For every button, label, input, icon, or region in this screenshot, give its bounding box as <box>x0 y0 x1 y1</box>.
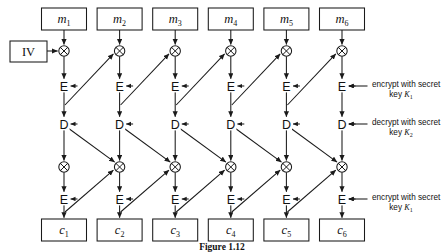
encrypt-node-upper-label: E <box>60 80 68 94</box>
wire-decrypt-diagonal <box>177 127 226 163</box>
encrypt-node-upper: E <box>281 80 300 94</box>
wire-feedback-upper-diagonal <box>121 54 169 105</box>
encrypt-node-upper: E <box>58 80 77 94</box>
annotation-line-2: key K2 <box>389 128 413 138</box>
decrypt-node: D <box>225 118 244 132</box>
encrypt-node-upper: E <box>114 80 133 94</box>
wire-decrypt-diagonal <box>233 127 282 163</box>
wire-feedback-lower-diagonal <box>176 170 224 212</box>
encrypt-node-upper-label: E <box>338 80 346 94</box>
encrypt-node-lower-label: E <box>338 193 346 207</box>
encrypt-node-lower-label: E <box>60 193 68 207</box>
decrypt-node: D <box>170 118 189 132</box>
wire-feedback-upper-diagonal <box>287 54 335 105</box>
xor-node-upper <box>170 46 180 56</box>
annotation-line-1: encrypt with secret <box>372 80 441 89</box>
wire-feedback-upper-diagonal <box>176 54 224 105</box>
encrypt-node-lower: E <box>225 193 244 207</box>
figure-caption: Figure 1.12 <box>199 242 245 252</box>
encrypt-node-upper-label: E <box>115 80 123 94</box>
wire-feedback-upper-diagonal <box>65 54 113 105</box>
decrypt-node: D <box>336 118 355 132</box>
encrypt-node-lower-label: E <box>115 193 123 207</box>
decrypt-node-label: D <box>171 118 180 132</box>
annotation-encrypt-k1-upper: encrypt with secretkey K1 <box>349 80 441 100</box>
decrypt-node-label: D <box>337 118 346 132</box>
decrypt-node: D <box>114 118 133 132</box>
encrypt-node-lower: E <box>114 193 133 207</box>
wire-decrypt-diagonal <box>288 127 337 163</box>
encrypt-node-lower-label: E <box>227 193 235 207</box>
annotation-decrypt-k2: decrypt with secretkey K2 <box>349 118 441 138</box>
annotation-encrypt-k1-lower: encrypt with secretkey K1 <box>349 193 441 213</box>
wire-feedback-lower-diagonal <box>65 170 113 212</box>
encrypt-node-lower: E <box>170 193 189 207</box>
xor-node-lower <box>226 162 236 172</box>
decrypt-node: D <box>58 118 77 132</box>
xor-node-lower <box>170 162 180 172</box>
decrypt-node: D <box>281 118 300 132</box>
xor-node-lower <box>59 162 69 172</box>
wire-feedback-upper-diagonal <box>232 54 280 105</box>
wire-feedback-lower-diagonal <box>232 170 280 212</box>
encrypt-node-upper-label: E <box>227 80 235 94</box>
encrypt-node-upper: E <box>225 80 244 94</box>
encrypt-node-upper: E <box>170 80 189 94</box>
xor-node-upper <box>226 46 236 56</box>
decrypt-node-label: D <box>115 118 124 132</box>
encrypt-node-lower-label: E <box>282 193 290 207</box>
decrypt-node-label: D <box>282 118 291 132</box>
encrypt-node-lower-label: E <box>171 193 179 207</box>
encrypt-node-lower: E <box>336 193 355 207</box>
decrypt-node-label: D <box>226 118 235 132</box>
diagram-boxes: IVm1c1EDEm2c2EDEm3c3EDEm4c4EDEm5c5EDEm6c… <box>10 8 365 241</box>
xor-node-upper <box>337 46 347 56</box>
encrypt-node-lower: E <box>58 193 77 207</box>
encrypt-node-upper-label: E <box>282 80 290 94</box>
xor-node-upper <box>281 46 291 56</box>
xor-node-lower <box>281 162 291 172</box>
encrypt-node-upper-label: E <box>171 80 179 94</box>
annotation-line-2: key K1 <box>389 203 413 213</box>
encrypt-node-lower: E <box>281 193 300 207</box>
xor-node-upper <box>114 46 124 56</box>
decrypt-node-label: D <box>59 118 68 132</box>
xor-node-lower <box>337 162 347 172</box>
annotation-line-1: encrypt with secret <box>372 193 441 202</box>
cbc-mode-diagram: IVm1c1EDEm2c2EDEm3c3EDEm4c4EDEm5c5EDEm6c… <box>0 0 444 252</box>
iv-label: IV <box>22 45 35 59</box>
wire-feedback-lower-diagonal <box>121 170 169 212</box>
wire-decrypt-diagonal <box>66 127 115 163</box>
diagram-annotations: encrypt with secretkey K1decrypt with se… <box>349 80 441 213</box>
wire-decrypt-diagonal <box>122 127 171 163</box>
xor-node-lower <box>114 162 124 172</box>
figure-caption-group: Figure 1.12 <box>199 242 245 252</box>
wire-feedback-lower-diagonal <box>287 170 335 212</box>
annotation-line-1: decrypt with secret <box>372 118 441 127</box>
annotation-line-2: key K1 <box>389 90 413 100</box>
encrypt-node-upper: E <box>336 80 355 94</box>
xor-node-upper <box>59 46 69 56</box>
